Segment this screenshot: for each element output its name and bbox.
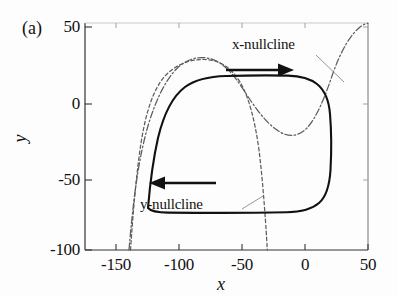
y-tick-label-0: 0 xyxy=(52,94,80,114)
x-tick-label-50: 50 xyxy=(346,255,390,275)
y-axis-title: y xyxy=(10,129,31,149)
y-nullcline-label: y-nullcline xyxy=(140,196,203,213)
y-tick-label-minus-100: -100 xyxy=(25,240,80,260)
y-tick-label-minus-50: -50 xyxy=(36,170,80,190)
x-nullcline-label: x-nullcline xyxy=(232,36,295,53)
axes-frame xyxy=(85,23,368,250)
figure-panel: (a) 50 0 -50 -100 -150 -100 -50 0 50 y x… xyxy=(0,0,397,297)
curve-limit-cycle xyxy=(148,75,331,212)
panel-label: (a) xyxy=(22,18,42,39)
axis-ticks xyxy=(85,23,368,250)
y-tick-label-50: 50 xyxy=(52,17,80,37)
x-tick-label-minus-50: -50 xyxy=(215,255,269,275)
x-axis-title: x xyxy=(211,274,231,295)
flow-arrow-left-icon xyxy=(149,177,216,190)
curve-y-nullcline xyxy=(131,59,268,250)
x-tick-label-minus-100: -100 xyxy=(149,255,209,275)
x-tick-label-minus-150: -150 xyxy=(86,255,146,275)
x-tick-label-0: 0 xyxy=(283,255,327,275)
